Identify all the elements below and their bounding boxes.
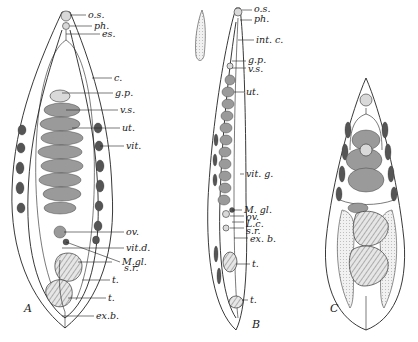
label-excretory-bladder-b: ex. b. [250,233,276,244]
oral-sucker-b [234,8,242,16]
testis-posterior-b [229,296,243,308]
label-testis-2-a: t. [108,292,115,303]
label-uterus-a: ut. [122,122,135,133]
figure-a: o.s. ph. es. c. g.p. v.s. ut. vit. ov. v… [12,9,150,328]
figure-letter-c: C [330,302,339,315]
label-seminal-receptacle-a: s.r. [124,262,138,273]
label-cecum-a: c. [114,72,122,83]
label-excretory-bladder-a: ex.b. [96,310,119,321]
label-testis-1-b: t. [252,258,259,269]
pharynx-a [63,23,70,30]
label-ventral-sucker-a: v.s. [120,104,135,115]
oral-sucker-a [61,11,71,21]
label-intestinal-cecum-b: int. c. [256,34,283,45]
vitelline-duct-c [340,200,394,205]
intestinal-cecum-b [234,18,238,318]
label-testis-2-b: t. [250,294,257,305]
label-ventral-sucker-b: v.s. [248,63,263,74]
figure-letter-a: A [23,302,32,315]
figure-letter-b: B [251,318,260,331]
label-ovary-a: ov. [126,226,139,237]
testis-anterior-b [223,252,237,272]
trematode-plate: o.s. ph. es. c. g.p. v.s. ut. vit. ov. v… [0,0,418,342]
label-pharynx-b: ph. [254,13,269,24]
label-esophagus-a: es. [102,28,116,39]
body-outline-b [208,8,247,330]
label-uterus-b: ut. [246,86,259,97]
ovary-b [223,211,230,218]
uterus-a [38,90,83,214]
label-vitelline-duct-a: vit.d. [126,242,150,253]
label-testis-1-a: t. [112,274,119,285]
seminal-receptacle-b [223,225,229,231]
label-genital-pore-a: g.p. [115,87,133,98]
body-outline-c [325,78,404,330]
label-vitelline-glands-b: vit. g. [246,168,273,179]
label-oral-sucker-a: o.s. [88,9,104,20]
label-vitellaria-a: vit. [126,140,141,151]
figure-c: C [325,78,404,330]
uterus-b [218,75,235,205]
testis-posterior-a [46,280,72,307]
oral-sucker-c [360,94,372,106]
uterus-c [346,130,384,192]
figure-b: o.s. ph. int. c. g.p. v.s. ut. vit. g. M… [195,3,283,331]
juvenile-outline-b [195,10,205,61]
